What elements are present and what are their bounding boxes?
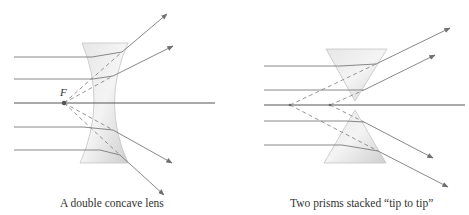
optics-diagram: F A double concave lens Two prisms stack… bbox=[0, 0, 469, 215]
virtual-point-dot bbox=[329, 104, 332, 107]
diagram-canvas bbox=[0, 0, 469, 215]
concave-lens-caption: A double concave lens bbox=[60, 197, 164, 209]
prisms-panel bbox=[264, 28, 465, 187]
virtual-ray-dashed bbox=[330, 90, 364, 105]
refracted-ray-arrow bbox=[122, 14, 167, 52]
focal-point-dot bbox=[62, 101, 66, 105]
refracted-ray-arrow bbox=[376, 28, 450, 64]
prisms-caption: Two prisms stacked “tip to tip” bbox=[290, 197, 433, 209]
refracted-ray-arrow bbox=[378, 151, 448, 187]
focal-point-label: F bbox=[60, 86, 67, 98]
refracted-ray-arrow bbox=[120, 155, 164, 195]
concave-lens-panel bbox=[14, 14, 215, 195]
virtual-point-dot bbox=[289, 104, 292, 107]
